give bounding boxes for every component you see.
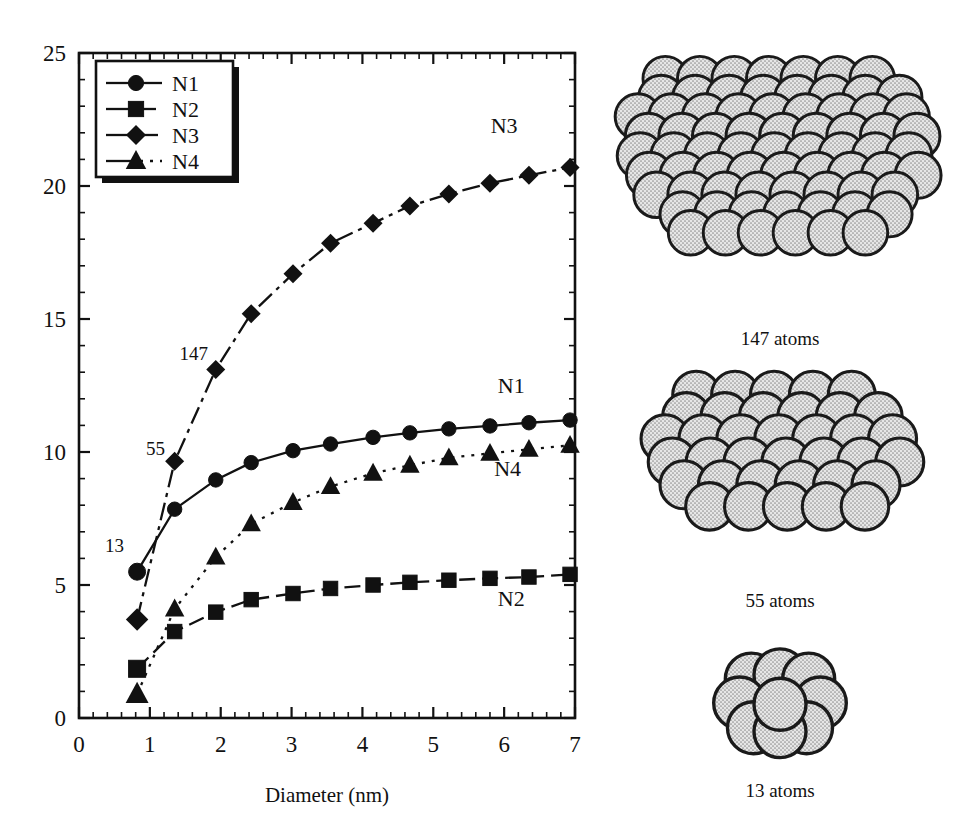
- data-point: [286, 443, 300, 457]
- atom-sphere: [754, 678, 806, 730]
- y-tick-label: 20: [43, 174, 66, 199]
- series-label-n3: N3: [491, 113, 518, 138]
- data-point: [483, 571, 497, 585]
- data-point: [126, 608, 148, 630]
- figure-root: 012345670510152025Diameter (nm)N3N1N4N21…: [0, 0, 960, 837]
- y-tick-label: 25: [43, 41, 66, 66]
- data-point: [129, 660, 146, 677]
- data-point: [563, 567, 577, 581]
- data-point: [522, 570, 536, 584]
- data-point: [129, 563, 146, 580]
- data-point: [209, 473, 223, 487]
- series-label-n1: N1: [498, 373, 525, 398]
- data-point: [209, 605, 223, 619]
- data-point: [167, 624, 181, 638]
- data-point: [126, 682, 149, 703]
- atom-circle: [754, 678, 806, 730]
- x-tick-label: 5: [428, 732, 440, 757]
- cluster-147-caption: 147 atoms: [600, 328, 960, 350]
- legend-label-n1: N1: [172, 71, 199, 96]
- series-n1: [129, 413, 578, 580]
- data-point: [323, 581, 337, 595]
- data-point: [167, 502, 181, 516]
- series-line: [137, 420, 570, 572]
- y-tick-label: 15: [43, 307, 66, 332]
- data-point: [522, 416, 536, 430]
- cluster-55: 55 atoms: [600, 360, 960, 612]
- legend-marker-n1: [128, 75, 143, 90]
- legend-label-n2: N2: [172, 97, 199, 122]
- x-tick-label: 6: [498, 732, 510, 757]
- data-point: [165, 599, 184, 617]
- cluster-55-icon: [600, 360, 960, 590]
- data-point: [286, 586, 300, 600]
- series-label-n2: N2: [498, 586, 525, 611]
- atom-sphere: [841, 483, 889, 531]
- series-n2: [129, 567, 578, 677]
- legend-label-n4: N4: [172, 149, 199, 174]
- atom-circle: [841, 483, 889, 531]
- legend-box: [96, 61, 233, 177]
- annotation-13: 13: [105, 535, 124, 556]
- data-point: [480, 174, 499, 193]
- x-axis-title: Diameter (nm): [265, 783, 389, 807]
- data-point: [561, 158, 580, 177]
- data-point: [241, 513, 260, 531]
- data-point: [563, 413, 577, 427]
- chart-legend: N1N2N3N4: [96, 61, 239, 183]
- series-line: [137, 445, 570, 694]
- x-tick-label: 2: [215, 732, 227, 757]
- data-point: [206, 547, 225, 565]
- cluster-13: 13 atoms: [600, 645, 960, 802]
- data-point: [165, 452, 184, 471]
- data-point: [321, 234, 340, 253]
- data-point: [366, 578, 380, 592]
- atom-circle: [843, 210, 888, 255]
- data-point: [519, 439, 538, 457]
- annotation-55: 55: [146, 438, 165, 459]
- cluster-147-icon: [600, 28, 960, 328]
- data-point: [366, 430, 380, 444]
- series-label-n4: N4: [494, 456, 521, 481]
- data-point: [439, 184, 458, 203]
- data-point: [400, 196, 419, 215]
- y-tick-label: 10: [43, 440, 66, 465]
- data-point: [244, 455, 258, 469]
- coordination-number-chart: 012345670510152025Diameter (nm)N3N1N4N21…: [0, 0, 600, 837]
- data-point: [519, 166, 538, 185]
- cluster-55-caption: 55 atoms: [600, 590, 960, 612]
- x-tick-label: 4: [357, 732, 369, 757]
- data-point: [323, 437, 337, 451]
- atom-sphere: [843, 210, 888, 255]
- data-point: [560, 435, 579, 453]
- data-point: [439, 447, 458, 465]
- data-point: [403, 575, 417, 589]
- data-point: [442, 422, 456, 436]
- x-tick-label: 7: [569, 732, 581, 757]
- legend-label-n3: N3: [172, 123, 199, 148]
- data-point: [283, 492, 302, 510]
- data-point: [442, 573, 456, 587]
- chart-panel: 012345670510152025Diameter (nm)N3N1N4N21…: [0, 0, 600, 837]
- y-tick-label: 0: [55, 706, 67, 731]
- x-tick-label: 0: [73, 732, 85, 757]
- cluster-13-icon: [600, 645, 960, 780]
- data-point: [242, 304, 261, 323]
- cluster-illustrations-panel: 147 atoms 55 atoms 13 atoms: [600, 0, 960, 837]
- data-point: [363, 463, 382, 481]
- annotation-147: 147: [180, 343, 209, 364]
- x-tick-label: 3: [286, 732, 298, 757]
- x-tick-label: 1: [144, 732, 156, 757]
- legend-marker-n2: [128, 101, 143, 116]
- cluster-147: 147 atoms: [600, 28, 960, 350]
- data-point: [400, 455, 419, 473]
- data-point: [364, 214, 383, 233]
- cluster-13-caption: 13 atoms: [600, 780, 960, 802]
- y-tick-label: 5: [55, 573, 67, 598]
- data-point: [483, 419, 497, 433]
- data-point: [206, 360, 225, 379]
- data-point: [244, 592, 258, 606]
- data-point: [403, 426, 417, 440]
